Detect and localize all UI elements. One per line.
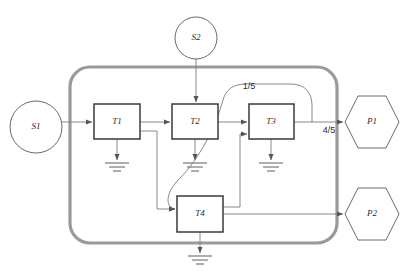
t2-label: T2 bbox=[190, 116, 200, 126]
node-p2[interactable]: P2 bbox=[345, 188, 399, 240]
label-split-four-fifths: 4/5 bbox=[323, 125, 336, 135]
ground-t2 bbox=[183, 139, 207, 171]
t3-label: T3 bbox=[266, 116, 276, 126]
diagram-canvas: S1 S2 T1 T2 T3 T4 P1 bbox=[0, 0, 414, 274]
node-t1[interactable]: T1 bbox=[94, 104, 140, 139]
ground-t1 bbox=[105, 139, 129, 171]
node-t4[interactable]: T4 bbox=[177, 196, 223, 232]
p2-label: P2 bbox=[366, 208, 377, 218]
s2-label: S2 bbox=[192, 32, 202, 42]
s1-label: S1 bbox=[32, 121, 41, 131]
node-s2[interactable]: S2 bbox=[175, 17, 217, 59]
node-t3[interactable]: T3 bbox=[249, 104, 294, 139]
wire-t1-branch-to-t4 bbox=[140, 131, 175, 209]
process-block-diagram: S1 S2 T1 T2 T3 T4 P1 bbox=[0, 0, 414, 274]
t1-label: T1 bbox=[112, 116, 122, 126]
p1-label: P1 bbox=[366, 116, 377, 126]
node-p1[interactable]: P1 bbox=[345, 96, 399, 148]
ground-t4 bbox=[188, 232, 212, 264]
t4-label: T4 bbox=[195, 208, 205, 218]
wire-t4-to-t3 bbox=[223, 134, 247, 207]
ground-t3 bbox=[259, 139, 283, 171]
label-split-one-fifth: 1/5 bbox=[243, 81, 256, 91]
node-t2[interactable]: T2 bbox=[172, 104, 218, 139]
node-s1[interactable]: S1 bbox=[10, 101, 62, 153]
